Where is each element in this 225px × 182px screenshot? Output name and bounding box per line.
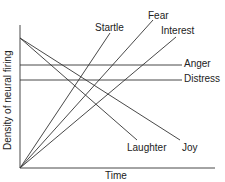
joy-label: Joy: [182, 142, 198, 153]
startle-label: Startle: [95, 22, 124, 33]
distress-label: Distress: [184, 73, 220, 84]
neural-firing-diagram: Startle Fear Interest Anger Distress Lau…: [0, 0, 225, 182]
laughter-label: Laughter: [127, 142, 166, 153]
fear-label: Fear: [148, 10, 169, 21]
y-axis-label: Density of neural firing: [2, 51, 13, 151]
interest-label: Interest: [161, 25, 194, 36]
x-axis-label: Time: [105, 170, 127, 181]
startle-line: [20, 33, 110, 168]
laughter-line: [20, 38, 137, 140]
anger-label: Anger: [184, 58, 211, 69]
